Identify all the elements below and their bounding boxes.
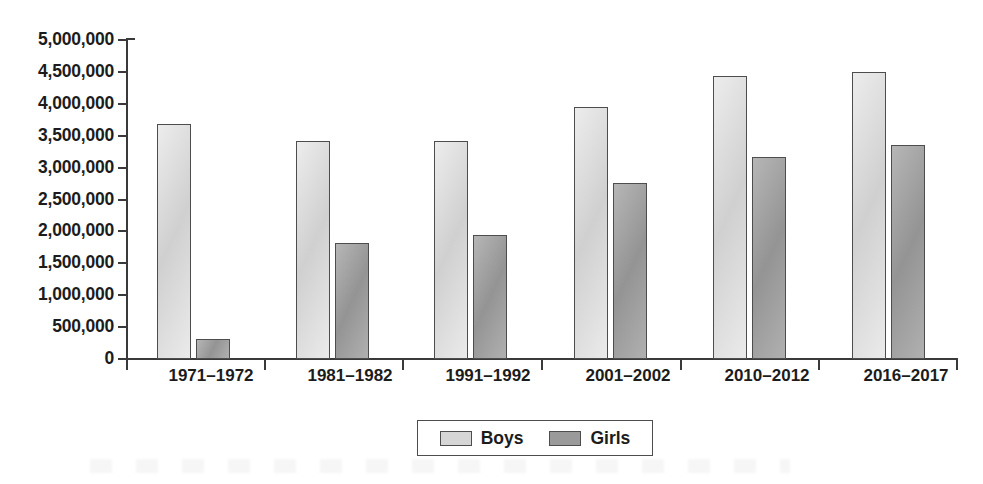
y-axis-tick-label: 0 xyxy=(2,348,114,369)
x-axis-category-label: 1981–1982 xyxy=(280,366,420,386)
y-axis-tick-label: 500,000 xyxy=(2,316,114,337)
plot-area xyxy=(126,40,958,359)
girls-swatch-icon xyxy=(549,431,581,446)
legend-entry-boys[interactable]: Boys xyxy=(440,428,524,449)
bar-girls-2010-2012 xyxy=(752,157,786,359)
legend-label-girls: Girls xyxy=(590,428,630,449)
bar-girls-1981-1982 xyxy=(335,243,369,359)
bar-girls-1991-1992 xyxy=(473,235,507,359)
y-axis-tick-label: 5,000,000 xyxy=(2,29,114,50)
bar-boys-2001-2002 xyxy=(574,107,608,359)
bar-boys-1981-1982 xyxy=(296,141,330,359)
bar-boys-1991-1992 xyxy=(434,141,468,359)
bar-boys-2010-2012 xyxy=(713,76,747,359)
x-axis-category-label: 1991–1992 xyxy=(418,366,558,386)
y-axis-tick-label: 2,500,000 xyxy=(2,189,114,210)
scan-artifact xyxy=(90,459,790,473)
bar-boys-2016-2017 xyxy=(852,72,886,359)
x-axis-category-label: 2016–2017 xyxy=(836,366,976,386)
x-axis-category-label: 1971–1972 xyxy=(141,366,281,386)
legend: Boys Girls xyxy=(417,420,653,456)
y-axis-tick-label: 2,000,000 xyxy=(2,220,114,241)
y-axis-tick-label: 1,500,000 xyxy=(2,252,114,273)
x-axis-category-label: 2010–2012 xyxy=(697,366,837,386)
y-axis-tick-label: 4,000,000 xyxy=(2,93,114,114)
legend-entry-girls[interactable]: Girls xyxy=(549,428,630,449)
y-axis-tick-label: 3,500,000 xyxy=(2,125,114,146)
x-axis-category-label: 2001–2002 xyxy=(558,366,698,386)
y-axis-tick-label: 3,000,000 xyxy=(2,157,114,178)
y-axis-tick-label: 1,000,000 xyxy=(2,284,114,305)
bar-chart: 5,000,0004,500,0004,000,0003,500,0003,00… xyxy=(0,0,983,484)
bar-girls-1971-1972 xyxy=(196,339,230,359)
bar-girls-2016-2017 xyxy=(891,145,925,359)
boys-swatch-icon xyxy=(440,431,472,446)
bar-girls-2001-2002 xyxy=(613,183,647,359)
bar-boys-1971-1972 xyxy=(157,124,191,359)
y-axis-tick-label: 4,500,000 xyxy=(2,61,114,82)
legend-label-boys: Boys xyxy=(481,428,524,449)
x-axis-tick xyxy=(126,360,128,370)
